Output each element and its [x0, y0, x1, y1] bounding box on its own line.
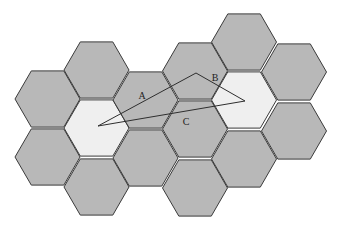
label-b: B — [212, 72, 219, 83]
label-a: A — [138, 90, 146, 101]
hexagonal-cell-diagram: A B C — [0, 0, 342, 235]
label-c: C — [183, 116, 190, 127]
hex-cells — [15, 14, 327, 216]
